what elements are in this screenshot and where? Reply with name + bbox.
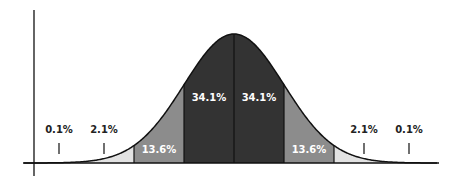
tail-label: 0.1%	[45, 124, 73, 135]
tail-label: 2.1%	[90, 124, 118, 135]
band-label: 13.6%	[292, 144, 327, 155]
band-label: 13.6%	[142, 144, 177, 155]
band-label: 34.1%	[242, 92, 277, 103]
tail-label: 0.1%	[395, 124, 423, 135]
normal-distribution-chart: 13.6%34.1%34.1%13.6% 0.1%2.1%2.1%0.1%	[0, 0, 458, 183]
band-label: 34.1%	[192, 92, 227, 103]
tail-label: 2.1%	[350, 124, 378, 135]
